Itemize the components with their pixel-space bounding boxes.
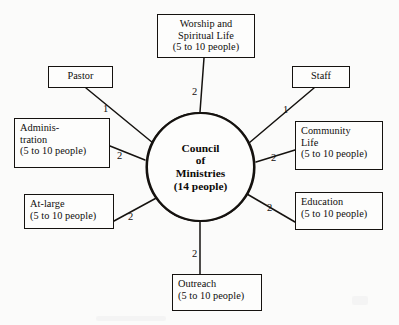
education-node[interactable]: Education (5 to 10 people) [295, 192, 383, 230]
outreach-node[interactable]: Outreach (5 to 10 people) [172, 274, 262, 311]
organizational-diagram: Council of Ministries (14 people) Worshi… [0, 0, 399, 325]
edge-label-worship: 2 [192, 86, 197, 97]
scan-artifact [96, 316, 166, 321]
edge-label-pastor: 1 [103, 103, 108, 114]
edge-line-admin [110, 146, 145, 160]
edge-label-community-life: 2 [271, 152, 276, 163]
edge-line-worship [200, 58, 204, 112]
edge-label-administration: 2 [117, 150, 122, 161]
worship-and-spiritual-life-node[interactable]: Worship and Spiritual Life (5 to 10 peop… [157, 14, 255, 58]
edge-line-at-large [114, 196, 160, 221]
pastor-node[interactable]: Pastor [48, 66, 113, 88]
edge-label-education: 2 [267, 202, 272, 213]
edge-label-at-large: 2 [128, 211, 133, 222]
edge-label-staff: 1 [283, 104, 288, 115]
scan-artifact [352, 296, 368, 305]
staff-node[interactable]: Staff [292, 66, 350, 88]
council-of-ministries-node[interactable]: Council of Ministries (14 people) [146, 112, 255, 222]
edge-label-outreach: 2 [192, 248, 197, 259]
at-large-node[interactable]: At-large (5 to 10 people) [24, 194, 114, 229]
community-life-node[interactable]: Community Life (5 to 10 people) [295, 121, 383, 170]
administration-node[interactable]: Adminis- tration (5 to 10 people) [14, 118, 110, 168]
